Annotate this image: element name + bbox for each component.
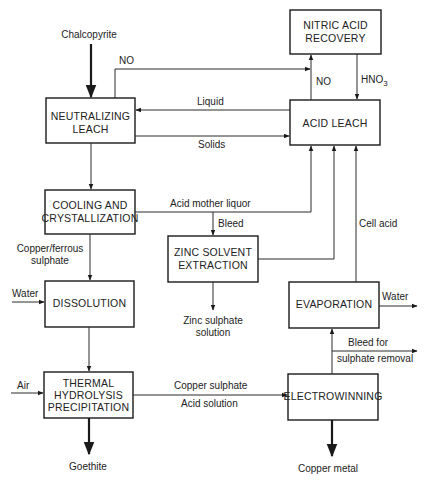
cell-acid-stream: Cell acid bbox=[356, 146, 397, 282]
svg-text:Zinc sulphate: Zinc sulphate bbox=[183, 315, 243, 326]
nitric-acid-recovery-box: NITRIC ACID RECOVERY bbox=[290, 10, 381, 54]
svg-text:RECOVERY: RECOVERY bbox=[305, 32, 365, 44]
svg-text:COOLING AND: COOLING AND bbox=[52, 199, 127, 211]
evaporation-box: EVAPORATION bbox=[289, 282, 379, 328]
svg-text:Acid solution: Acid solution bbox=[181, 398, 238, 409]
bleed-sulphate-removal-stream: Bleed for sulphate removal bbox=[332, 337, 417, 364]
svg-text:Copper sulphate: Copper sulphate bbox=[174, 380, 248, 391]
svg-text:DISSOLUTION: DISSOLUTION bbox=[53, 297, 126, 309]
solids-stream: Solids bbox=[135, 136, 289, 150]
svg-text:NEUTRALIZING: NEUTRALIZING bbox=[51, 110, 130, 122]
svg-text:NITRIC ACID: NITRIC ACID bbox=[303, 19, 368, 31]
svg-text:Water: Water bbox=[382, 291, 409, 302]
copper-ferrous-sulphate-stream: Copper/ferrous sulphate bbox=[17, 234, 90, 280]
svg-text:Acid mother liquor: Acid mother liquor bbox=[170, 198, 251, 209]
liquid-stream: Liquid bbox=[136, 96, 290, 110]
svg-text:sulphate removal: sulphate removal bbox=[337, 353, 413, 364]
no-stream-top: NO bbox=[115, 55, 310, 98]
svg-text:LEACH: LEACH bbox=[72, 123, 108, 135]
svg-text:Bleed for: Bleed for bbox=[348, 337, 389, 348]
air-stream: Air bbox=[11, 380, 43, 393]
svg-text:EXTRACTION: EXTRACTION bbox=[178, 259, 248, 271]
svg-text:Goethite: Goethite bbox=[69, 461, 107, 472]
no-stream-up: NO bbox=[311, 55, 331, 100]
goethite-stream: Goethite bbox=[69, 418, 107, 472]
water-out-stream: Water bbox=[379, 291, 417, 306]
svg-text:ZINC SOLVENT: ZINC SOLVENT bbox=[174, 246, 252, 258]
svg-text:THERMAL: THERMAL bbox=[63, 377, 115, 389]
svg-text:ACID LEACH: ACID LEACH bbox=[302, 117, 367, 129]
zinc-sulphate-solution-stream: Zinc sulphate solution bbox=[183, 282, 243, 338]
svg-text:ELECTROWINNING: ELECTROWINNING bbox=[283, 390, 382, 402]
neutralizing-leach-box: NEUTRALIZING LEACH bbox=[46, 98, 135, 143]
dissolution-box: DISSOLUTION bbox=[45, 281, 134, 327]
thermal-hydrolysis-precipitation-box: THERMAL HYDROLYSIS PRECIPITATION bbox=[44, 372, 133, 418]
svg-text:NO: NO bbox=[316, 76, 331, 87]
copper-sulphate-acid-solution-stream: Copper sulphate Acid solution bbox=[133, 380, 287, 409]
zinc-solvent-extraction-box: ZINC SOLVENT EXTRACTION bbox=[168, 236, 258, 282]
svg-text:solution: solution bbox=[196, 327, 230, 338]
hno3-stream: HNO3 bbox=[357, 54, 388, 99]
svg-text:PRECIPITATION: PRECIPITATION bbox=[48, 401, 130, 413]
svg-text:Copper/ferrous: Copper/ferrous bbox=[17, 243, 84, 254]
svg-text:Chalcopyrite: Chalcopyrite bbox=[61, 29, 117, 40]
bleed-stream: Bleed bbox=[213, 212, 244, 235]
svg-text:sulphate: sulphate bbox=[31, 255, 69, 266]
acid-leach-box: ACID LEACH bbox=[290, 100, 380, 145]
zinc-sx-return-stream bbox=[258, 146, 334, 259]
copper-metal-stream: Copper metal bbox=[298, 420, 358, 474]
svg-text:Water: Water bbox=[12, 288, 39, 299]
chalcopyrite-feed-stream: Chalcopyrite bbox=[61, 29, 117, 97]
svg-text:Cell acid: Cell acid bbox=[359, 218, 397, 229]
svg-text:Bleed: Bleed bbox=[218, 218, 244, 229]
svg-text:Air: Air bbox=[17, 380, 30, 391]
water-in-stream: Water bbox=[12, 288, 44, 302]
process-flow-diagram: NITRIC ACID RECOVERY NEUTRALIZING LEACH … bbox=[0, 0, 430, 486]
svg-text:CRYSTALLIZATION: CRYSTALLIZATION bbox=[42, 212, 139, 224]
svg-text:Liquid: Liquid bbox=[197, 96, 224, 107]
cooling-crystallization-box: COOLING AND CRYSTALLIZATION bbox=[42, 190, 139, 234]
svg-text:Solids: Solids bbox=[198, 139, 225, 150]
svg-text:NO: NO bbox=[119, 55, 134, 66]
svg-text:HYDROLYSIS: HYDROLYSIS bbox=[54, 389, 123, 401]
electrowinning-box: ELECTROWINNING bbox=[283, 374, 382, 420]
svg-text:EVAPORATION: EVAPORATION bbox=[296, 298, 373, 310]
svg-text:Copper metal: Copper metal bbox=[298, 463, 358, 474]
acid-mother-liquor-stream: Acid mother liquor bbox=[135, 146, 311, 212]
svg-text:HNO3: HNO3 bbox=[361, 74, 388, 88]
